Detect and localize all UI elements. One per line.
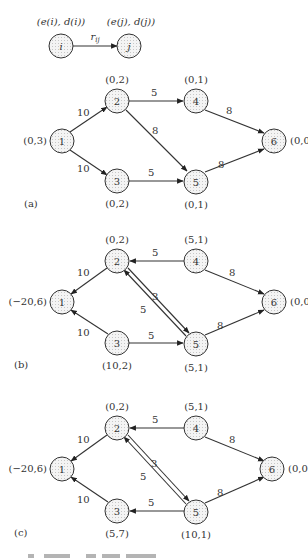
weight-2-1: 10 [77,434,90,445]
weight-3-5: 5 [148,330,154,341]
weight-4-6: 8 [229,267,235,278]
node-6-text: 6 [271,136,277,147]
node-5-text: 5 [193,339,199,350]
node-3-label: (10,2) [102,360,132,371]
caption-fragment [28,554,156,558]
node-4-text: 4 [193,256,199,267]
weight-5-2: 5 [140,471,146,482]
panel-c: 10 10 5 3 5 5 8 8 1 2 3 4 5 6 (−20,6) (0… [9,401,308,540]
node-6-text: 6 [271,297,277,308]
node-5-label: (0,1) [184,199,208,210]
legend-label-i: (e(i), d(i)) [37,16,86,27]
node-1-label: (0,3) [23,135,47,146]
node-4-text: 4 [193,96,199,107]
legend-label-j: (e(j), d(j)) [107,16,155,27]
panel-b-tag: (b) [14,359,28,370]
panel-a: 10 10 5 8 5 8 8 1 2 3 4 5 6 (0,3) (0,2) … [23,74,308,210]
weight-3-1: 10 [77,494,90,505]
weight-1-2: 10 [77,107,90,118]
node-6-label: (0,0) [290,135,308,146]
node-3-text: 3 [114,338,120,349]
node-4-label: (0,1) [184,74,208,85]
node-1-text: 1 [59,297,65,308]
panel-c-tag: (c) [14,527,28,538]
edge-2-5 [128,268,189,333]
weight-2-5: 8 [152,125,158,136]
panel-b: 10 10 5 3 5 5 8 8 1 2 3 4 5 6 (−20,6) (0… [9,234,308,373]
node-4-label: (5,1) [184,401,208,412]
weight-2-4: 5 [151,87,157,98]
node-6-text: 6 [269,464,275,475]
weight-2-5: 3 [152,291,158,302]
node-3-text: 3 [114,176,120,187]
node-2-label: (0,2) [105,401,129,412]
edge-4-6 [205,110,264,133]
edge-5-2 [124,270,186,336]
legend-edge-label: rij [90,31,100,44]
weight-2-5: 3 [151,458,157,469]
weight-5-6: 8 [218,159,224,170]
node-3-label: (0,2) [105,198,129,209]
weight-5-6: 8 [217,487,223,498]
weight-3-5: 5 [148,167,154,178]
node-6-label: (0,0) [290,296,308,307]
node-1-label: (−20,6) [9,296,48,307]
node-6-label: (0,0) [288,463,308,474]
legend-node-i-text: i [59,41,62,52]
weight-4-6: 8 [229,434,235,445]
node-2-label: (0,2) [105,74,129,85]
edge-5-6 [205,477,264,503]
weight-5-3: 5 [148,497,154,508]
node-5-text: 5 [193,507,199,518]
weight-1-3: 10 [77,163,90,174]
weight-4-2: 5 [152,414,158,425]
weight-4-6: 8 [226,105,232,116]
node-3-label: (5,7) [105,528,129,539]
network-diagram: (e(i), d(i)) (e(j), d(j)) rij i j 10 10 … [0,0,308,558]
node-2-text: 2 [114,96,120,107]
node-4-label: (5,1) [184,234,208,245]
node-5-label: (5,1) [184,362,208,373]
legend: (e(i), d(i)) (e(j), d(j)) rij i j [37,16,155,58]
node-5-text: 5 [193,177,199,188]
edge-5-6 [205,149,264,172]
edge-2-5 [128,435,189,501]
weight-4-2: 5 [152,247,158,258]
weight-2-1: 10 [77,267,90,278]
weight-5-6: 8 [217,320,223,331]
node-2-text: 2 [114,423,120,434]
weight-3-1: 10 [77,327,90,338]
node-3-text: 3 [114,506,120,517]
edge-5-2 [124,437,186,504]
node-1-text: 1 [59,464,65,475]
node-2-text: 2 [114,256,120,267]
node-4-text: 4 [193,423,199,434]
edge-5-6 [205,310,264,335]
weight-5-2: 5 [140,304,146,315]
panel-a-tag: (a) [24,198,38,209]
node-5-label: (10,1) [181,529,211,540]
node-1-label: (−20,6) [9,463,48,474]
edge-2-5 [126,110,187,171]
node-2-label: (0,2) [105,234,129,245]
node-1-text: 1 [59,136,65,147]
